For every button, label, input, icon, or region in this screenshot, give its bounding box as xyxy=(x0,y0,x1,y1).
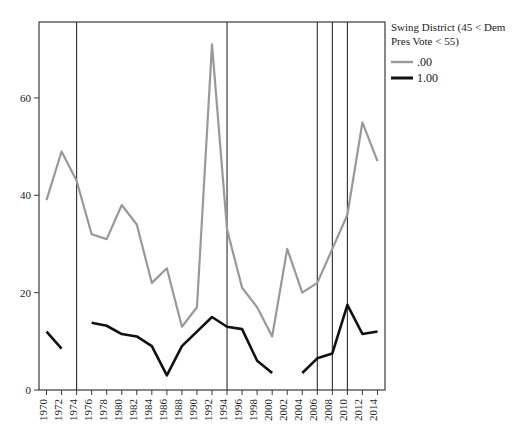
x-tick-label-1980: 1980 xyxy=(112,399,124,422)
data-series xyxy=(47,44,378,375)
x-tick-label-2004: 2004 xyxy=(292,399,304,422)
series-100-segment-0 xyxy=(47,332,62,349)
x-axis-ticks: 1970197219741976197819801982198419861988… xyxy=(37,390,380,421)
x-tick-label-2008: 2008 xyxy=(322,399,334,422)
y-tick-label-20: 20 xyxy=(20,287,32,299)
x-tick-label-1990: 1990 xyxy=(187,399,199,422)
x-tick-label-2014: 2014 xyxy=(367,399,379,422)
legend-title-line1: Swing District (45 < Dem xyxy=(391,21,506,34)
x-tick-label-2000: 2000 xyxy=(262,399,274,422)
reference-lines xyxy=(77,22,348,390)
line-chart: 0204060 19701972197419761978198019821984… xyxy=(0,0,516,443)
x-tick-label-1992: 1992 xyxy=(202,399,214,421)
legend-label-00: .00 xyxy=(417,55,432,69)
x-tick-label-1982: 1982 xyxy=(127,399,139,421)
series-100-segment-2 xyxy=(302,305,377,373)
x-tick-label-2002: 2002 xyxy=(277,399,289,421)
plot-frame-rect xyxy=(39,22,385,390)
legend-label-100: 1.00 xyxy=(417,71,438,85)
x-tick-label-1984: 1984 xyxy=(142,399,154,422)
x-tick-label-1970: 1970 xyxy=(37,399,49,422)
chart-container: 0204060 19701972197419761978198019821984… xyxy=(0,0,516,443)
y-tick-label-40: 40 xyxy=(20,189,32,201)
x-tick-label-1994: 1994 xyxy=(217,399,229,422)
x-tick-label-2012: 2012 xyxy=(352,399,364,421)
x-tick-label-1988: 1988 xyxy=(172,399,184,422)
y-tick-label-0: 0 xyxy=(26,384,32,396)
x-tick-label-1986: 1986 xyxy=(157,399,169,422)
x-tick-label-1996: 1996 xyxy=(232,399,244,422)
chart-legend: Swing District (45 < DemPres Vote < 55).… xyxy=(391,21,506,85)
x-tick-label-1978: 1978 xyxy=(97,399,109,422)
y-axis-ticks: 0204060 xyxy=(20,92,39,396)
x-tick-label-2010: 2010 xyxy=(337,399,349,422)
plot-frame xyxy=(39,22,385,390)
x-tick-label-1976: 1976 xyxy=(82,399,94,422)
legend-title-line2: Pres Vote < 55) xyxy=(391,35,459,48)
x-tick-label-1998: 1998 xyxy=(247,399,259,422)
series-00-segment-0 xyxy=(47,44,378,336)
x-tick-label-1972: 1972 xyxy=(52,399,64,421)
y-tick-label-60: 60 xyxy=(20,92,32,104)
x-tick-label-1974: 1974 xyxy=(67,399,79,422)
x-tick-label-2006: 2006 xyxy=(307,399,319,422)
